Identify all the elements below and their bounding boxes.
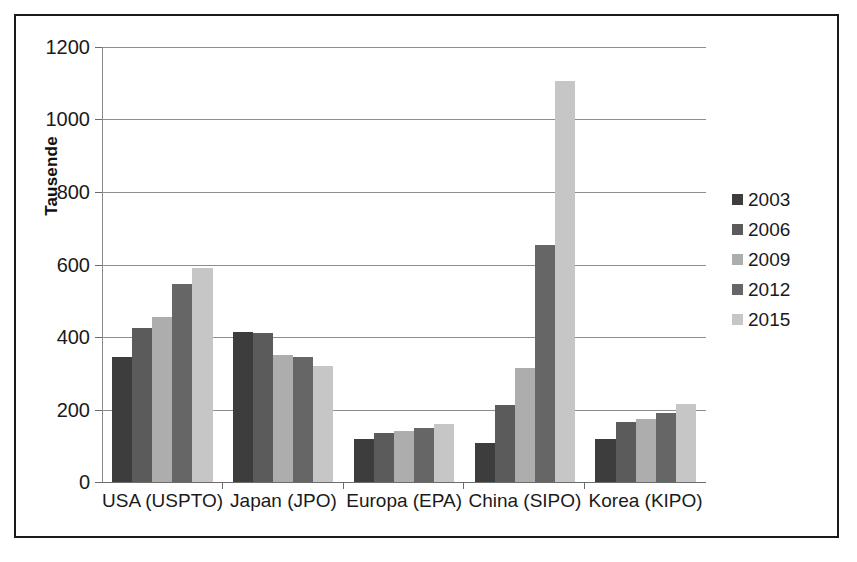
x-axis-tick-mark [584,482,585,489]
bar-slots [112,47,212,482]
legend-label: 2012 [748,280,790,299]
bar-group [102,47,223,482]
bar-slots [233,47,333,482]
legend-label: 2003 [748,190,790,209]
bar[interactable] [152,317,172,482]
bar-slots [354,47,454,482]
y-axis-tick-mark [95,192,102,193]
bar-group [344,47,465,482]
bar[interactable] [555,81,575,482]
bar[interactable] [434,424,454,482]
y-axis-tick-mark [95,337,102,338]
bar[interactable] [676,404,696,482]
y-axis-tick-label: 1000 [46,108,91,131]
gridline [102,482,706,483]
legend-item[interactable]: 2003 [732,184,790,214]
legend-item[interactable]: 2015 [732,304,790,334]
bar[interactable] [233,332,253,482]
bar[interactable] [313,366,333,482]
y-axis-tick-mark [95,265,102,266]
y-axis-tick-label: 0 [79,471,90,494]
bar[interactable] [515,368,535,482]
chart-legend: 20032006200920122015 [732,184,790,334]
bar[interactable] [192,268,212,482]
legend-swatch-icon [732,284,743,295]
legend-swatch-icon [732,194,743,205]
bar[interactable] [414,428,434,482]
chart-frame: Tausende 120010008006004002000 USA (USPT… [14,14,839,538]
legend-item[interactable]: 2006 [732,214,790,244]
y-axis-tick-mark [95,482,102,483]
legend-label: 2006 [748,220,790,239]
bar[interactable] [253,333,273,482]
bar-group [464,47,585,482]
bar-groups [102,47,706,482]
bar-group [223,47,344,482]
x-axis-tick-mark [343,482,344,489]
bar[interactable] [394,431,414,482]
bar-group [585,47,706,482]
bar[interactable] [132,328,152,482]
legend-label: 2015 [748,310,790,329]
bar[interactable] [354,439,374,482]
x-axis-tick-mark [222,482,223,489]
legend-item[interactable]: 2012 [732,274,790,304]
bar[interactable] [535,245,555,482]
legend-swatch-icon [732,314,743,325]
bar[interactable] [273,355,293,482]
x-axis-category-label: Europa (EPA) [344,490,465,512]
x-axis-category-label: Japan (JPO) [223,490,344,512]
legend-swatch-icon [732,224,743,235]
y-axis-tick-label: 400 [57,325,90,348]
bar[interactable] [595,439,615,483]
y-axis-tick-mark [95,47,102,48]
bar[interactable] [172,284,192,482]
x-axis-tick-mark [463,482,464,489]
plot-area: 120010008006004002000 [102,47,706,482]
bar[interactable] [495,405,515,482]
bar[interactable] [656,413,676,482]
bar[interactable] [112,357,132,482]
x-axis-category-label: Korea (KIPO) [585,490,706,512]
legend-swatch-icon [732,254,743,265]
legend-label: 2009 [748,250,790,269]
x-axis-labels: USA (USPTO)Japan (JPO)Europa (EPA)China … [102,490,706,512]
y-axis-tick-label: 800 [57,180,90,203]
bar[interactable] [616,422,636,482]
y-axis-tick-label: 200 [57,398,90,421]
bar[interactable] [293,357,313,482]
legend-item[interactable]: 2009 [732,244,790,274]
x-axis-category-label: China (SIPO) [465,490,586,512]
bar[interactable] [636,419,656,482]
bar-slots [595,47,695,482]
bar[interactable] [475,443,495,482]
bar[interactable] [374,433,394,482]
y-axis-tick-mark [95,410,102,411]
y-axis-tick-mark [95,119,102,120]
y-axis-tick-label: 1200 [46,36,91,59]
y-axis-tick-label: 600 [57,253,90,276]
bar-slots [475,47,575,482]
x-axis-category-label: USA (USPTO) [102,490,223,512]
